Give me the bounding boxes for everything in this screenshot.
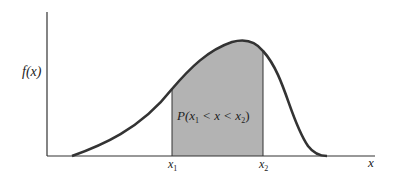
x-axis-label: x	[367, 155, 374, 170]
probability-annotation: P(x1 < x < x2)	[176, 108, 249, 125]
y-axis-label: f(x)	[22, 64, 42, 80]
density-chart: f(x) x x1 x2 P(x1 < x < x2)	[0, 0, 395, 179]
x2-tick-label: x2	[258, 157, 268, 173]
shaded-probability-area	[172, 40, 263, 156]
x1-tick-label: x1	[167, 157, 177, 173]
